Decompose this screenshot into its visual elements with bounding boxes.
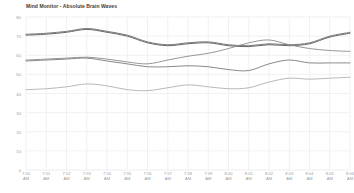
series-line-wave-4 <box>26 58 350 71</box>
x-axis-tick-7-58: 7:58AM <box>184 171 192 182</box>
x-axis-tick-7-57: 7:57AM <box>164 171 172 182</box>
y-axis: 80706050403020100 <box>0 17 24 170</box>
x-tick-meridiem: AM <box>63 176 71 181</box>
x-axis-tick-7-55: 7:55AM <box>123 171 131 182</box>
y-axis-tick-50: 50 <box>16 72 21 77</box>
x-tick-meridiem: AM <box>306 176 314 181</box>
plot-area <box>26 17 350 170</box>
x-axis-tick-7-52: 7:52AM <box>63 171 71 182</box>
x-tick-meridiem: AM <box>346 176 354 181</box>
series-line-wave-5 <box>26 77 350 90</box>
x-axis-tick-7-50: 7:50AM <box>22 171 30 182</box>
x-tick-meridiem: AM <box>184 176 192 181</box>
x-tick-meridiem: AM <box>204 176 212 181</box>
series-layer <box>26 17 350 170</box>
x-axis-tick-7-54: 7:54AM <box>103 171 111 182</box>
x-axis-tick-8-00: 8:00AM <box>225 171 233 182</box>
x-axis-tick-8-01: 8:01AM <box>245 171 253 182</box>
x-tick-meridiem: AM <box>326 176 334 181</box>
y-axis-tick-60: 60 <box>16 53 21 58</box>
x-tick-meridiem: AM <box>225 176 233 181</box>
y-axis-tick-70: 70 <box>16 34 21 39</box>
x-tick-meridiem: AM <box>22 176 30 181</box>
x-axis-tick-8-06: 8:06AM <box>346 171 354 182</box>
x-axis: 7:50AM7:51AM7:52AM7:53AM7:54AM7:55AM7:56… <box>26 171 350 193</box>
x-axis-tick-7-53: 7:53AM <box>83 171 91 182</box>
x-axis-tick-8-03: 8:03AM <box>285 171 293 182</box>
y-axis-tick-80: 80 <box>16 15 21 20</box>
x-axis-tick-7-56: 7:56AM <box>144 171 152 182</box>
x-tick-meridiem: AM <box>83 176 91 181</box>
x-tick-meridiem: AM <box>144 176 152 181</box>
y-axis-tick-40: 40 <box>16 91 21 96</box>
x-axis-tick-8-05: 8:05AM <box>326 171 334 182</box>
x-tick-meridiem: AM <box>164 176 172 181</box>
x-tick-meridiem: AM <box>103 176 111 181</box>
chart-title: Mind Monitor - Absolute Brain Waves <box>26 3 117 9</box>
y-axis-tick-0: 0 <box>19 168 21 173</box>
x-axis-tick-8-04: 8:04AM <box>306 171 314 182</box>
x-axis-tick-7-51: 7:51AM <box>42 171 50 182</box>
x-tick-meridiem: AM <box>245 176 253 181</box>
y-axis-tick-20: 20 <box>16 129 21 134</box>
x-tick-meridiem: AM <box>42 176 50 181</box>
y-axis-tick-10: 10 <box>16 148 21 153</box>
x-tick-meridiem: AM <box>265 176 273 181</box>
x-tick-meridiem: AM <box>123 176 131 181</box>
x-tick-meridiem: AM <box>285 176 293 181</box>
x-axis-tick-8-02: 8:02AM <box>265 171 273 182</box>
x-axis-tick-7-59: 7:59AM <box>204 171 212 182</box>
y-axis-tick-30: 30 <box>16 110 21 115</box>
